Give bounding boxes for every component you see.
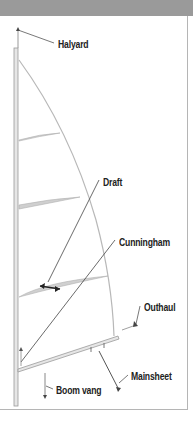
draft-pointer — [40, 180, 99, 292]
halyard-line — [16, 27, 54, 48]
boom-vang-arrow-icon — [43, 395, 47, 399]
cunningham-line — [19, 240, 115, 366]
outhaul-arrow-icon — [133, 321, 138, 327]
label-cunningham: Cunningham — [119, 236, 170, 248]
label-halyard: Halyard — [58, 38, 88, 50]
mast — [14, 48, 18, 406]
label-mainsheet: Mainsheet — [131, 370, 172, 382]
mainsheet-arrow-icon — [116, 387, 121, 392]
boom — [18, 336, 119, 372]
label-draft: Draft — [103, 176, 122, 188]
outhaul-line — [122, 306, 140, 330]
label-outhaul: Outhaul — [144, 301, 175, 313]
label-boom-vang: Boom vang — [56, 384, 101, 396]
sail-diagram — [0, 0, 193, 421]
boom-vang-line — [43, 373, 53, 399]
